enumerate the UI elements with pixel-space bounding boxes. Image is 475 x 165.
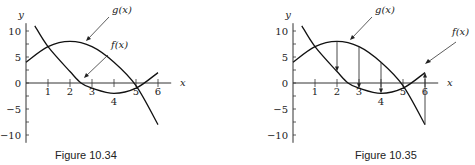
caption-left: Figure 10.34 — [55, 149, 117, 161]
g-label: g(x) — [375, 4, 395, 15]
y-axis-label: y — [284, 9, 291, 20]
y-tick-label: 5 — [282, 52, 288, 63]
y-tick-label: −10 — [0, 130, 21, 141]
y-tick-label: −5 — [273, 104, 288, 115]
y-axis-label: y — [17, 9, 24, 20]
y-tick-label: 0 — [15, 78, 21, 89]
caption-right: Figure 10.35 — [355, 149, 417, 161]
g-label: g(x) — [112, 4, 132, 15]
x-tick-label: 4 — [378, 96, 384, 107]
f-label: f(x) — [110, 39, 128, 50]
x-tick-label: 2 — [67, 86, 73, 97]
x-tick-label: 1 — [45, 86, 51, 97]
x-axis-label: x — [447, 77, 453, 88]
x-axis-label: x — [180, 77, 186, 88]
y-tick-label: 10 — [8, 26, 21, 37]
figure-right: −10−50510123456xyg(x)f(x) — [267, 4, 469, 143]
x-tick-label: 6 — [155, 86, 161, 97]
y-tick-label: 10 — [275, 26, 288, 37]
f-label: f(x) — [451, 26, 469, 37]
y-tick-label: 5 — [15, 52, 21, 63]
x-tick-label: 1 — [312, 86, 318, 97]
x-tick-label: 4 — [111, 96, 117, 107]
figures-canvas: −10−50510123456xyg(x)f(x)−10−50510123456… — [0, 0, 475, 165]
y-tick-label: −5 — [6, 104, 21, 115]
figure-left: −10−50510123456xyg(x)f(x) — [0, 4, 186, 143]
x-tick-label: 2 — [334, 86, 340, 97]
y-tick-label: −10 — [267, 130, 288, 141]
y-tick-label: 0 — [282, 78, 288, 89]
